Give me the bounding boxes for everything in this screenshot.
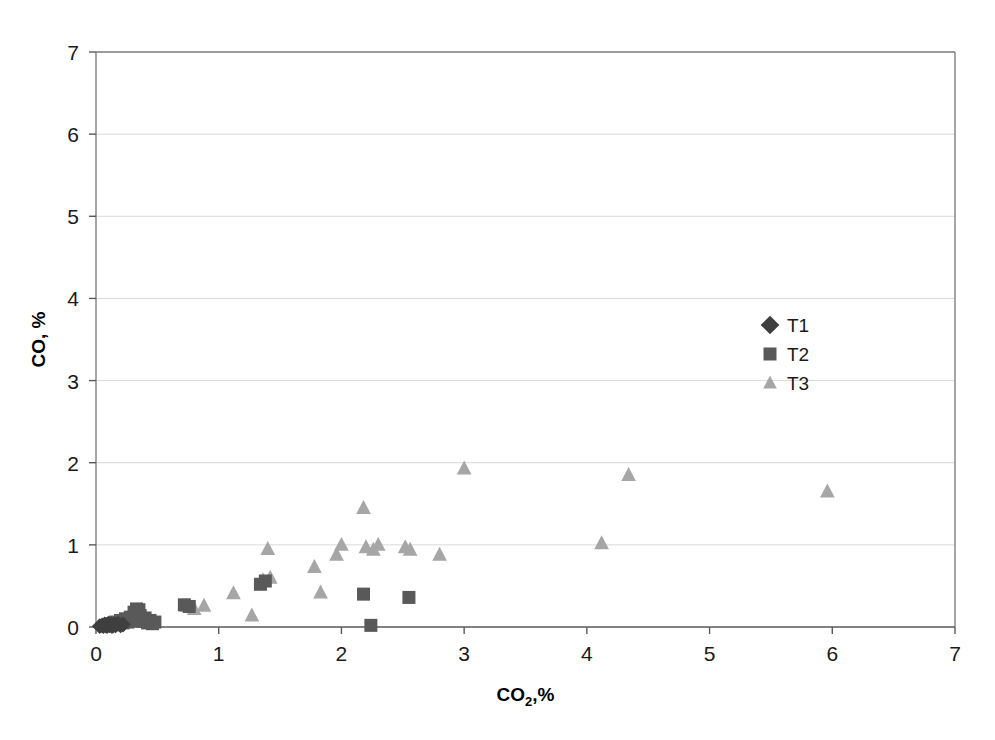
chart-legend: T1T2T3 xyxy=(761,315,810,394)
x-tick-label-4: 4 xyxy=(581,642,593,665)
point-T3-22 xyxy=(820,483,835,497)
legend-entry-T3: T3 xyxy=(763,373,809,394)
scatter-plot-canvas: 01234567 01234567 T1T2T3 CO2,%CO, % xyxy=(0,0,995,740)
x-tick-label-1: 1 xyxy=(213,642,225,665)
x-tick-label-7: 7 xyxy=(949,642,961,665)
y-axis-title: CO, % xyxy=(28,311,49,367)
point-T3-3 xyxy=(226,585,241,599)
data-points-group xyxy=(92,460,835,634)
x-axis-title: CO2,% xyxy=(497,684,555,709)
legend-label-T1: T1 xyxy=(787,315,809,336)
x-tick-label-2: 2 xyxy=(336,642,348,665)
y-tick-label-4: 4 xyxy=(67,287,79,310)
point-T3-2 xyxy=(197,598,212,612)
y-axis-ticks xyxy=(89,52,96,627)
point-T2-25 xyxy=(364,619,377,632)
legend-label-T3: T3 xyxy=(787,373,809,394)
point-T3-8 xyxy=(307,559,322,573)
y-tick-label-1: 1 xyxy=(67,534,79,557)
y-tick-label-3: 3 xyxy=(67,370,79,393)
legend-marker-T3 xyxy=(763,376,777,389)
point-T3-4 xyxy=(244,608,259,622)
y-axis-tick-labels: 01234567 xyxy=(67,41,79,639)
point-T2-24 xyxy=(357,588,370,601)
gridlines-group xyxy=(96,52,955,545)
series-T3 xyxy=(179,460,834,621)
x-tick-label-5: 5 xyxy=(704,642,716,665)
point-T3-12 xyxy=(356,500,371,514)
x-axis-ticks xyxy=(96,627,955,634)
y-tick-label-5: 5 xyxy=(67,205,79,228)
y-tick-label-2: 2 xyxy=(67,452,79,475)
legend-marker-T2 xyxy=(764,348,777,361)
series-T2 xyxy=(104,575,415,632)
point-T3-20 xyxy=(594,535,609,549)
legend-entry-T1: T1 xyxy=(761,315,810,336)
point-T2-19 xyxy=(148,616,161,629)
x-axis-tick-labels: 01234567 xyxy=(90,642,961,665)
plot-frame xyxy=(96,52,955,627)
point-T3-6 xyxy=(260,541,275,555)
legend-label-T2: T2 xyxy=(787,344,809,365)
y-tick-label-6: 6 xyxy=(67,123,79,146)
point-T2-23 xyxy=(259,575,272,588)
point-T3-21 xyxy=(621,467,636,481)
point-T2-26 xyxy=(402,591,415,604)
y-tick-label-7: 7 xyxy=(67,41,79,64)
legend-marker-T1 xyxy=(761,316,780,335)
legend-entry-T2: T2 xyxy=(764,344,810,365)
point-T2-21 xyxy=(183,600,196,613)
x-tick-label-0: 0 xyxy=(90,642,102,665)
point-T3-18 xyxy=(432,547,447,561)
axis-titles-group: CO2,%CO, % xyxy=(28,311,555,709)
point-T3-11 xyxy=(334,537,349,551)
x-tick-label-3: 3 xyxy=(458,642,470,665)
y-tick-label-0: 0 xyxy=(67,616,79,639)
scatter-chart-figure: 01234567 01234567 T1T2T3 CO2,%CO, % xyxy=(0,0,995,740)
x-tick-label-6: 6 xyxy=(826,642,838,665)
point-T3-9 xyxy=(313,585,328,599)
